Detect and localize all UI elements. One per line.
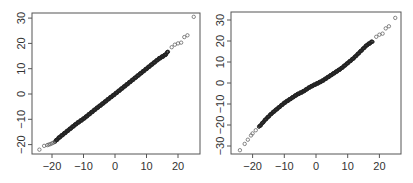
y-tick-label: 30 (214, 14, 226, 26)
x-tick-label: −10 (74, 160, 93, 172)
right-qq-plot: −20−1001020−30−20−100102030 (214, 12, 401, 172)
x-tick-label: −10 (275, 160, 294, 172)
x-tick-label: 0 (313, 160, 319, 172)
x-tick-label: 10 (342, 160, 354, 172)
y-tick-label: 10 (15, 63, 27, 75)
x-tick-label: 0 (112, 160, 118, 172)
data-points (38, 15, 196, 151)
figure: −20−1001020−20−100102030 −20−1001020−30−… (0, 0, 413, 183)
x-tick-label: 20 (172, 160, 184, 172)
y-tick-label: 20 (15, 37, 27, 49)
y-tick-label: −10 (15, 110, 27, 129)
y-tick-label: 10 (214, 56, 226, 68)
y-tick-label: 0 (15, 91, 27, 97)
y-tick-label: −30 (214, 137, 226, 156)
x-tick-label: 10 (140, 160, 152, 172)
data-points (238, 16, 397, 152)
y-tick-label: −20 (214, 116, 226, 135)
plot-frame (32, 13, 200, 154)
y-tick-label: 30 (15, 12, 27, 24)
x-tick-label: −20 (43, 160, 62, 172)
left-qq-plot: −20−1001020−20−100102030 (15, 12, 200, 172)
y-tick-label: 0 (214, 80, 226, 86)
y-tick-label: 20 (214, 35, 226, 47)
x-tick-label: 20 (373, 160, 385, 172)
x-tick-label: −20 (243, 160, 262, 172)
y-tick-label: −10 (214, 95, 226, 114)
y-tick-label: −20 (15, 135, 27, 154)
